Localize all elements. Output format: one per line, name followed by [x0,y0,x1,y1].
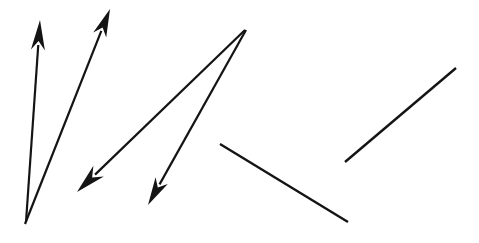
figure-canvas [0,0,479,243]
line-arrow-sketch-svg [0,0,479,243]
